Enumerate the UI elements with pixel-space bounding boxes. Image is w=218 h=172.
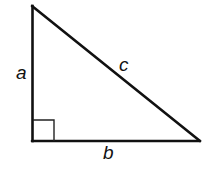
side-c-hypotenuse bbox=[32, 6, 200, 141]
right-angle-marker bbox=[33, 120, 54, 141]
right-triangle-diagram: a c b bbox=[0, 0, 218, 172]
label-c: c bbox=[119, 54, 129, 75]
label-a: a bbox=[16, 62, 27, 83]
label-b: b bbox=[103, 142, 114, 163]
triangle-canvas: a c b bbox=[0, 0, 218, 172]
